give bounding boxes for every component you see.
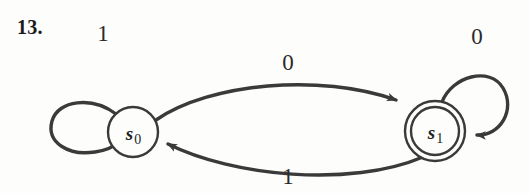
transition-label-s1-self: 0 (471, 25, 483, 48)
state-s1-symbol: s (428, 122, 435, 143)
state-s0-label: s0 (126, 124, 140, 143)
transition-s0-to-s1-arc (156, 85, 396, 120)
exercise-number: 13. (17, 17, 43, 37)
state-s1-label: s1 (428, 123, 442, 142)
transition-label-s1-to-s0: 1 (282, 165, 294, 188)
state-s0-symbol: s (126, 123, 133, 144)
transition-s0-to-s1-path (156, 85, 396, 120)
transition-s1-to-s0-arc (168, 144, 423, 175)
figure-container: 13. s0 s1 1 0 1 0 (0, 0, 529, 193)
transition-s1-to-s0-path (168, 144, 423, 175)
state-s1-subscript: 1 (436, 131, 443, 146)
transition-label-s0-to-s1: 0 (282, 51, 294, 74)
state-diagram-canvas (0, 0, 529, 193)
transition-label-s0-self: 1 (97, 22, 109, 45)
state-s0-subscript: 0 (134, 132, 141, 147)
